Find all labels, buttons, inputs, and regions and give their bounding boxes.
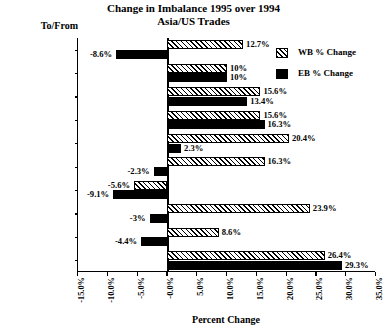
bar-value-label: 15.6% bbox=[263, 87, 287, 96]
bar-value-label: 20.4% bbox=[292, 134, 316, 143]
bar-value-label: -9.1% bbox=[87, 190, 109, 199]
bar-wb bbox=[167, 134, 289, 143]
category-tick bbox=[75, 167, 78, 168]
x-tick-label: -15.0% bbox=[77, 277, 86, 303]
x-tick bbox=[256, 272, 257, 276]
x-tick bbox=[166, 272, 167, 276]
bar-value-label: 23.9% bbox=[313, 204, 337, 213]
x-tick bbox=[107, 272, 108, 276]
bar-eb bbox=[167, 97, 247, 106]
bar-chart: Change in Imbalance 1995 over 1994 Asia/… bbox=[0, 0, 387, 332]
x-tick-label: -0.0% bbox=[166, 277, 175, 299]
bar-value-label: 26.4% bbox=[328, 251, 352, 260]
bar-eb bbox=[116, 50, 167, 59]
bar-value-label: 13.4% bbox=[250, 97, 274, 106]
bar-value-label: 8.6% bbox=[222, 228, 241, 237]
x-tick bbox=[137, 272, 138, 276]
bar-value-label: -4.4% bbox=[115, 237, 137, 246]
bar-value-label: -8.6% bbox=[90, 50, 112, 59]
bar-wb bbox=[167, 251, 324, 260]
bar-value-label: 2.3% bbox=[184, 144, 203, 153]
category-tick bbox=[75, 213, 78, 214]
bar-wb bbox=[134, 181, 167, 190]
bar-wb bbox=[167, 204, 309, 213]
bar-wb bbox=[167, 87, 260, 96]
category-tick bbox=[75, 143, 78, 144]
category-tick bbox=[75, 190, 78, 191]
bar-value-label: 16.3% bbox=[268, 157, 292, 166]
x-tick bbox=[226, 272, 227, 276]
bar-wb bbox=[167, 40, 243, 49]
x-tick-label: 25.0% bbox=[315, 277, 324, 300]
chart-title-main: Change in Imbalance 1995 over 1994 bbox=[0, 2, 387, 15]
x-tick bbox=[345, 272, 346, 276]
x-tick-label: 15.0% bbox=[255, 277, 264, 300]
x-tick-label: -5.0% bbox=[136, 277, 145, 299]
x-tick-label: 35.0% bbox=[375, 277, 384, 300]
category-tick bbox=[75, 50, 78, 51]
bar-eb bbox=[167, 261, 342, 270]
x-tick-label: -10.0% bbox=[106, 277, 115, 303]
x-tick bbox=[196, 272, 197, 276]
x-tick-label: 5.0% bbox=[196, 277, 205, 296]
x-tick bbox=[77, 272, 78, 276]
bar-value-label: -2.3% bbox=[128, 167, 150, 176]
x-tick-label: 20.0% bbox=[285, 277, 294, 300]
x-tick bbox=[286, 272, 287, 276]
chart-row: Japan8.6%-4.4% bbox=[78, 225, 375, 248]
bar-eb bbox=[154, 167, 168, 176]
bar-wb bbox=[167, 64, 227, 73]
category-tick bbox=[75, 260, 78, 261]
chart-row: Malaysia15.6%16.3% bbox=[78, 108, 375, 131]
chart-row: Thailand20.4%2.3% bbox=[78, 132, 375, 155]
x-tick-label: 10.0% bbox=[226, 277, 235, 300]
x-tick bbox=[375, 272, 376, 276]
chart-row: Hong Kong23.9%-3% bbox=[78, 202, 375, 225]
bar-eb bbox=[167, 120, 264, 129]
bar-wb bbox=[167, 111, 260, 120]
legend-label-eb: EB % Change bbox=[298, 68, 353, 78]
chart-row: China26.4%29.3% bbox=[78, 249, 375, 272]
chart-row: Chinese Taipei-5.6%-9.1% bbox=[78, 178, 375, 201]
bar-value-label: 10% bbox=[230, 73, 247, 82]
bar-value-label: -5.6% bbox=[108, 181, 130, 190]
bar-wb bbox=[167, 228, 218, 237]
hatched-swatch-icon bbox=[276, 48, 288, 58]
chart-row: Korea16.3%-2.3% bbox=[78, 155, 375, 178]
bar-value-label: -3% bbox=[130, 214, 146, 223]
category-tick bbox=[75, 120, 78, 121]
bar-wb bbox=[167, 157, 264, 166]
chart-row: Indonesia15.6%13.4% bbox=[78, 85, 375, 108]
category-tick bbox=[75, 237, 78, 238]
bar-value-label: 29.3% bbox=[345, 261, 369, 270]
bar-eb bbox=[167, 144, 181, 153]
x-tick-label: 30.0% bbox=[345, 277, 354, 300]
x-axis-title: Percent Change bbox=[77, 314, 375, 325]
y-axis-title: To/From bbox=[8, 20, 78, 31]
bar-value-label: 16.3% bbox=[268, 120, 292, 129]
category-tick bbox=[75, 96, 78, 97]
bar-eb bbox=[113, 190, 167, 199]
category-tick bbox=[75, 73, 78, 74]
solid-black-swatch-icon bbox=[276, 69, 288, 79]
bar-value-label: 12.7% bbox=[246, 40, 270, 49]
legend-label-wb: WB % Change bbox=[298, 47, 356, 57]
bar-eb bbox=[167, 73, 227, 82]
x-tick bbox=[315, 272, 316, 276]
bar-eb bbox=[150, 214, 168, 223]
bar-eb bbox=[141, 237, 167, 246]
